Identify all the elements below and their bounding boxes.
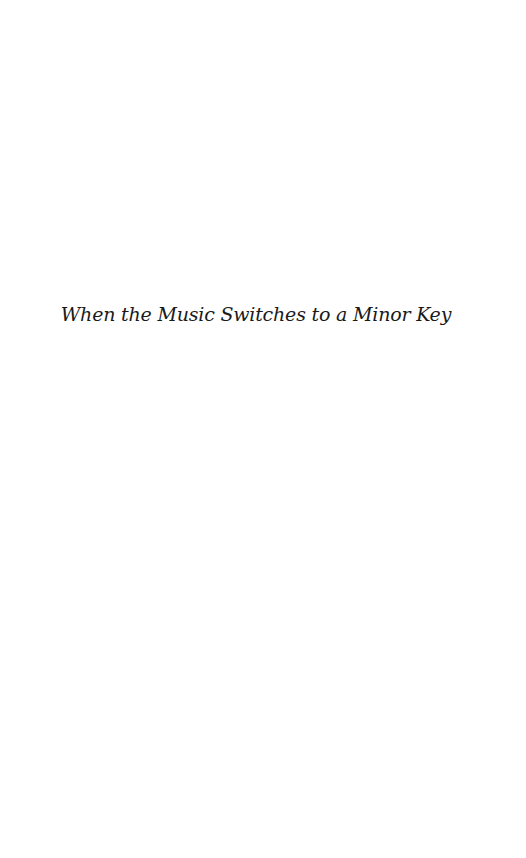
book-page: When the Music Switches to a Minor Key xyxy=(0,0,526,858)
page-title: When the Music Switches to a Minor Key xyxy=(0,301,512,327)
